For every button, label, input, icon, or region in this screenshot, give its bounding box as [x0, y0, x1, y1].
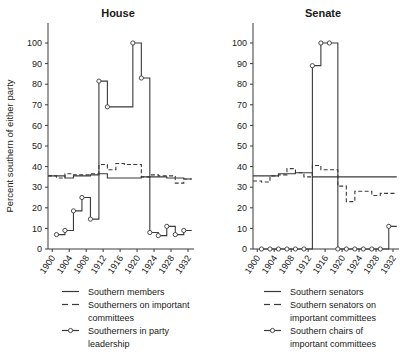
- data-point-marker: [293, 247, 297, 251]
- panel-title-senate: Senate: [305, 7, 341, 19]
- legend-item: Southerners on importantcommittees: [62, 300, 190, 323]
- x-tick-label: 1920: [328, 253, 348, 275]
- y-tick-label: 30: [32, 182, 42, 192]
- y-axis-label: Percent southern of either party: [4, 79, 15, 212]
- data-point-marker: [97, 79, 101, 83]
- data-point-marker: [259, 247, 263, 251]
- series-line-southern-chairs-of-important-committees: [261, 43, 396, 249]
- data-point-marker: [173, 232, 177, 236]
- y-tick-label: 40: [32, 162, 42, 172]
- y-tick-label: 100: [232, 38, 247, 48]
- x-tick-label: 1928: [361, 253, 381, 275]
- data-point-marker: [276, 247, 280, 251]
- y-tick-label: 0: [242, 244, 247, 254]
- data-point-marker: [165, 224, 169, 228]
- y-tick-label: 30: [237, 182, 247, 192]
- y-tick-label: 10: [237, 224, 247, 234]
- data-point-marker: [327, 41, 331, 45]
- data-point-marker: [71, 209, 75, 213]
- data-point-marker: [88, 217, 92, 221]
- data-point-marker: [319, 41, 323, 45]
- legend-house: Southern membersSoutherners on important…: [62, 287, 190, 349]
- y-tick-label: 100: [27, 38, 42, 48]
- legend-label-cont: leadership: [88, 339, 130, 349]
- legend-label-cont: committees: [88, 313, 135, 323]
- x-tick-label: 1904: [55, 253, 75, 275]
- series-line-southern-senators-on-important-committees: [253, 166, 397, 202]
- x-tick-label: 1912: [89, 253, 109, 275]
- y-tick-label: 50: [237, 141, 247, 151]
- x-tick-label: 1924: [345, 253, 365, 275]
- figure-root: Percent southern of either partyHouse010…: [0, 0, 413, 364]
- data-point-marker: [336, 247, 340, 251]
- data-point-marker: [344, 247, 348, 251]
- data-point-marker: [105, 105, 109, 109]
- legend-item: Southern chairs ofimportant committees: [264, 326, 377, 349]
- legend-swatch-marker: [270, 328, 274, 332]
- y-tick-label: 80: [32, 79, 42, 89]
- series-line-southerners-in-party-leadership: [56, 43, 191, 236]
- y-tick-label: 20: [237, 203, 247, 213]
- data-point-marker: [285, 247, 289, 251]
- x-tick-label: 1900: [38, 253, 58, 275]
- y-tick-label: 50: [32, 141, 42, 151]
- legend-label: Southerners in party: [88, 326, 170, 336]
- data-point-marker: [370, 247, 374, 251]
- x-tick-label: 1908: [72, 253, 92, 275]
- data-point-marker: [387, 224, 391, 228]
- x-tick-label: 1904: [260, 253, 280, 275]
- x-tick-label: 1916: [106, 253, 126, 275]
- panel-title-house: House: [101, 7, 135, 19]
- chart-panel-house: House01020304050607080901001900190419081…: [27, 7, 194, 276]
- y-tick-label: 90: [237, 59, 247, 69]
- y-tick-label: 70: [32, 100, 42, 110]
- x-tick-label: 1900: [243, 253, 263, 275]
- legend-label-cont: important committees: [290, 313, 377, 323]
- y-tick-label: 60: [237, 121, 247, 131]
- data-point-marker: [148, 230, 152, 234]
- series-line-southerners-on-important-committees: [48, 164, 192, 184]
- x-tick-label: 1932: [173, 253, 193, 275]
- legend-item: Southern senators: [264, 287, 364, 297]
- data-point-marker: [268, 247, 272, 251]
- data-point-marker: [361, 247, 365, 251]
- y-tick-label: 60: [32, 121, 42, 131]
- data-point-marker: [353, 247, 357, 251]
- y-tick-label: 0: [37, 244, 42, 254]
- data-point-marker: [139, 76, 143, 80]
- x-tick-label: 1924: [140, 253, 160, 275]
- data-point-marker: [310, 64, 314, 68]
- legend-item: Southerners in partyleadership: [62, 326, 170, 349]
- x-tick-label: 1916: [311, 253, 331, 275]
- y-tick-label: 90: [32, 59, 42, 69]
- x-tick-label: 1932: [378, 253, 398, 275]
- data-point-marker: [302, 247, 306, 251]
- legend-senate: Southern senatorsSouthern senators onimp…: [264, 287, 377, 349]
- legend-label-cont: important committees: [290, 339, 377, 349]
- data-point-marker: [182, 228, 186, 232]
- x-tick-label: 1908: [277, 253, 297, 275]
- legend-label: Southern members: [88, 287, 165, 297]
- legend-label: Southern senators: [290, 287, 364, 297]
- legend-label: Southern chairs of: [290, 326, 364, 336]
- legend-item: Southern members: [62, 287, 165, 297]
- legend-label: Southerners on important: [88, 300, 190, 310]
- legend-item: Southern senators onimportant committees: [264, 300, 377, 323]
- chart-panel-senate: Senate0102030405060708090100190019041908…: [232, 7, 399, 276]
- data-point-marker: [80, 195, 84, 199]
- data-point-marker: [156, 234, 160, 238]
- y-tick-label: 10: [32, 224, 42, 234]
- y-tick-label: 20: [32, 203, 42, 213]
- x-tick-label: 1912: [294, 253, 314, 275]
- y-tick-label: 70: [237, 100, 247, 110]
- data-point-marker: [131, 41, 135, 45]
- x-tick-label: 1928: [156, 253, 176, 275]
- legend-label: Southern senators on: [290, 300, 376, 310]
- data-point-marker: [54, 232, 58, 236]
- x-tick-label: 1920: [123, 253, 143, 275]
- data-point-marker: [63, 228, 67, 232]
- y-tick-label: 80: [237, 79, 247, 89]
- y-tick-label: 40: [237, 162, 247, 172]
- data-point-marker: [378, 247, 382, 251]
- legend-swatch-marker: [68, 328, 72, 332]
